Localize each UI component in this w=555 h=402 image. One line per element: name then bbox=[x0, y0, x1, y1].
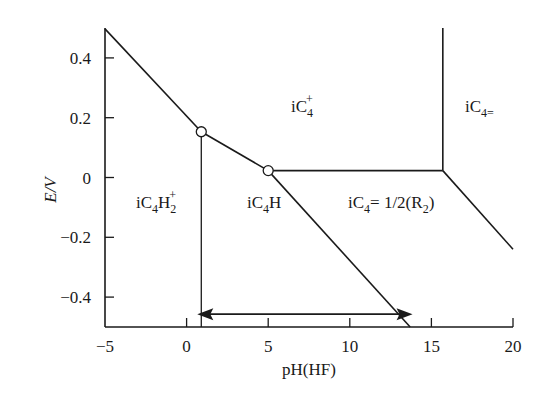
ticks: −5051015200.40.20−0.2−0.4 bbox=[60, 49, 521, 356]
x-tick-label: 20 bbox=[505, 337, 522, 356]
plot-area bbox=[105, 28, 513, 327]
region-label-iC4H: iC4H bbox=[247, 193, 281, 216]
x-tick-label: −5 bbox=[96, 337, 114, 356]
y-tick-label: −0.4 bbox=[60, 288, 91, 307]
axes bbox=[105, 28, 513, 327]
y-tick-label: −0.2 bbox=[60, 228, 91, 247]
y-axis-title: E/V bbox=[41, 175, 60, 204]
y-tick-label: 0 bbox=[83, 169, 92, 188]
region-label-iC4-eq: iC4= bbox=[465, 97, 494, 120]
boundary-line bbox=[443, 171, 513, 250]
triple-point-marker bbox=[263, 166, 273, 176]
region-label-iC4-plus: iC4+ bbox=[291, 92, 313, 120]
y-axis-var: E/V bbox=[41, 175, 60, 204]
boundary-line bbox=[105, 29, 201, 132]
y-tick-label: 0.4 bbox=[70, 49, 92, 68]
x-axis-title: pH(HF) bbox=[282, 360, 336, 379]
y-tick-label: 0.2 bbox=[70, 109, 91, 128]
x-tick-label: 0 bbox=[182, 337, 191, 356]
x-tick-label: 5 bbox=[264, 337, 273, 356]
x-tick-label: 10 bbox=[341, 337, 358, 356]
triple-point-marker bbox=[196, 127, 206, 137]
region-label-iC4-R2: iC4= 1/2(R2) bbox=[348, 193, 434, 216]
region-label-iC4H2-plus: iC4H2+ bbox=[136, 188, 176, 216]
pourbaix-chart: −5051015200.40.20−0.2−0.4 E/V pH(HF) iC4… bbox=[0, 0, 555, 402]
x-tick-label: 15 bbox=[423, 337, 440, 356]
boundary-line bbox=[201, 132, 268, 171]
